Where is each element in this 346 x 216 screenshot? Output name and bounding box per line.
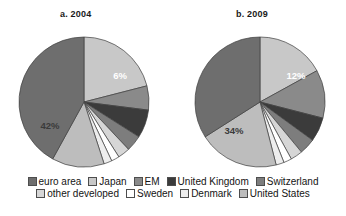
legend-row-1: euro areaJapanEMUnited KingdomSwitzerlan… xyxy=(28,176,319,187)
legend-item[interactable]: euro area xyxy=(28,176,82,187)
slice-percentage-label: 6% xyxy=(113,70,127,81)
legend-swatch-icon xyxy=(126,189,135,198)
legend-swatch-icon xyxy=(167,177,176,186)
legend-item[interactable]: Denmark xyxy=(180,188,232,199)
pie-slices-2009 xyxy=(195,37,325,167)
slice-percentage-label: 34% xyxy=(224,125,244,136)
slice-percentage-label: 12% xyxy=(286,70,306,81)
pie-chart-figure: a. 2004 b. 2009 6%42% 12%34% euro areaJa… xyxy=(0,0,346,216)
legend-swatch-icon xyxy=(134,177,143,186)
legend-label: Denmark xyxy=(191,188,232,199)
legend-label: Sweden xyxy=(137,188,173,199)
legend-item[interactable]: other developed xyxy=(36,188,119,199)
legend-swatch-icon xyxy=(256,177,265,186)
pie-chart-2009: 12%34% xyxy=(192,34,328,170)
legend-label: Japan xyxy=(99,176,126,187)
legend-swatch-icon xyxy=(180,189,189,198)
legend-swatch-icon xyxy=(36,189,45,198)
pie-slices-2004 xyxy=(19,37,149,167)
legend-item[interactable]: Switzerland xyxy=(256,176,319,187)
legend-item[interactable]: Sweden xyxy=(126,188,173,199)
legend-label: EM xyxy=(145,176,160,187)
legend-item[interactable]: EM xyxy=(134,176,160,187)
legend-swatch-icon xyxy=(28,177,37,186)
legend-swatch-icon xyxy=(88,177,97,186)
chart-title-2004: a. 2004 xyxy=(60,9,91,19)
pie-svg-2004: 6%42% xyxy=(16,34,152,170)
chart-title-2009: b. 2009 xyxy=(236,9,268,19)
legend-item[interactable]: Japan xyxy=(88,176,126,187)
legend-item[interactable]: United Kingdom xyxy=(167,176,249,187)
legend-label: euro area xyxy=(39,176,82,187)
legend-label: other developed xyxy=(47,188,119,199)
legend-label: Switzerland xyxy=(267,176,319,187)
slice-percentage-label: 42% xyxy=(40,120,60,131)
pie-chart-2004: 6%42% xyxy=(16,34,152,170)
legend-label: United Kingdom xyxy=(178,176,249,187)
pie-svg-2009: 12%34% xyxy=(192,34,328,170)
legend-swatch-icon xyxy=(239,189,248,198)
legend-item[interactable]: United States xyxy=(239,188,310,199)
legend: euro areaJapanEMUnited KingdomSwitzerlan… xyxy=(0,176,346,199)
legend-row-2: other developedSwedenDenmarkUnited State… xyxy=(36,188,310,199)
legend-label: United States xyxy=(250,188,310,199)
